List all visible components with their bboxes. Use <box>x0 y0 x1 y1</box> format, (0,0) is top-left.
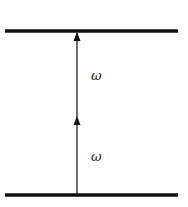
upper-omega-label: ω <box>91 68 102 83</box>
middle-arrowhead-icon <box>74 116 81 125</box>
top-arrowhead-icon <box>74 32 81 41</box>
lower-omega-label: ω <box>91 149 102 164</box>
diagram-canvas: ω ω <box>0 0 188 207</box>
